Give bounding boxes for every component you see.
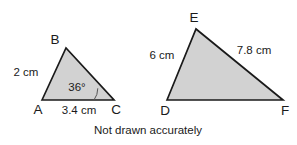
geometry-diagram: B A C 2 cm 3.4 cm 36° E D F 6 cm 7.8 cm … [0, 0, 297, 145]
side-label-ac: 3.4 cm [62, 104, 97, 116]
figure-canvas: B A C 2 cm 3.4 cm 36° E D F 6 cm 7.8 cm … [0, 0, 297, 145]
vertex-label-c: C [111, 102, 121, 117]
side-label-ef: 7.8 cm [237, 44, 272, 56]
vertex-label-d: D [160, 103, 170, 118]
triangle-def-shape [167, 29, 283, 100]
vertex-label-e: E [189, 10, 198, 25]
vertex-label-f: F [281, 103, 289, 118]
vertex-label-a: A [33, 102, 42, 117]
caption-text: Not drawn accurately [94, 124, 202, 136]
side-label-de: 6 cm [150, 49, 175, 61]
angle-label-c: 36° [68, 81, 85, 93]
vertex-label-b: B [50, 32, 59, 47]
side-label-ab: 2 cm [14, 66, 39, 78]
